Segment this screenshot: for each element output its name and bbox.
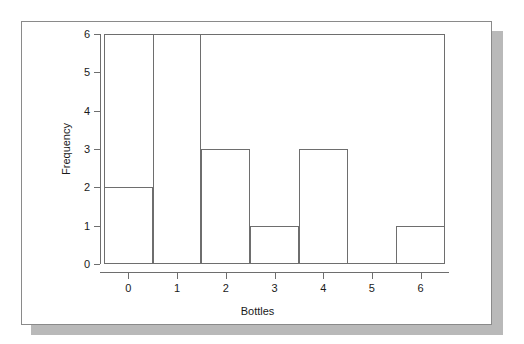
- x-axis-tick-label: 6: [418, 283, 424, 294]
- x-axis-tick-label: 1: [174, 283, 180, 294]
- x-axis-tick-label: 2: [223, 283, 229, 294]
- x-axis-tick-label: 3: [271, 283, 277, 294]
- y-axis-title: Frequency: [60, 123, 72, 175]
- x-axis-tick: [226, 273, 227, 279]
- x-axis-tick-label: 5: [369, 283, 375, 294]
- y-axis-tick-label: 0: [80, 259, 90, 270]
- x-axis-tick: [372, 273, 373, 279]
- histogram-bar: [201, 149, 250, 264]
- x-axis-tick: [177, 273, 178, 279]
- y-axis-title-wrap: Frequency: [58, 34, 74, 264]
- x-axis-title: Bottles: [22, 305, 493, 317]
- histogram-bars: [104, 34, 445, 264]
- histogram-figure: 0123456 Frequency 0123456 Bottles: [22, 22, 493, 326]
- histogram-bar: [153, 34, 202, 264]
- y-axis-tick: [94, 187, 100, 188]
- y-axis-tick: [94, 34, 100, 35]
- x-axis-tick: [323, 273, 324, 279]
- y-axis-tick: [94, 149, 100, 150]
- y-axis-tick-label: 5: [80, 67, 90, 78]
- y-axis-tick-label: 6: [80, 29, 90, 40]
- y-axis-tick: [94, 264, 100, 265]
- figure-card: 0123456 Frequency 0123456 Bottles: [21, 21, 492, 325]
- scanned-page: 0123456 Frequency 0123456 Bottles: [0, 0, 524, 344]
- x-axis-tick: [128, 273, 129, 279]
- histogram-bar: [396, 226, 445, 264]
- histogram-bar: [299, 149, 348, 264]
- y-axis-tick-label: 3: [80, 144, 90, 155]
- y-axis-tick: [94, 226, 100, 227]
- histogram-bar: [250, 226, 299, 264]
- x-axis-tick-label: 0: [125, 283, 131, 294]
- x-axis-tick: [421, 273, 422, 279]
- y-axis-tick: [94, 72, 100, 73]
- histogram-bar: [104, 187, 153, 264]
- y-axis-line: [100, 34, 101, 264]
- y-axis-tick-label: 2: [80, 182, 90, 193]
- y-axis-tick: [94, 111, 100, 112]
- x-axis-tick: [275, 273, 276, 279]
- x-axis-tick-label: 4: [320, 283, 326, 294]
- y-axis-tick-label: 4: [80, 106, 90, 117]
- y-axis-tick-label: 1: [80, 221, 90, 232]
